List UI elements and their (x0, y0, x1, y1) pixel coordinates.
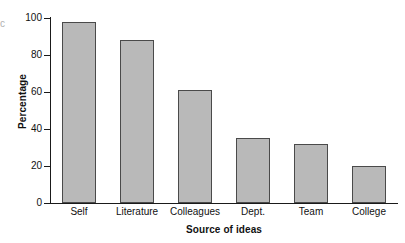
bar[interactable] (62, 22, 96, 203)
bar[interactable] (294, 144, 328, 203)
x-tick-label: Literature (108, 206, 166, 218)
y-tick-label: 0 (8, 198, 42, 208)
x-tick-label: College (340, 206, 398, 218)
y-tick-label-wrap: 40 (0, 124, 42, 134)
y-tick-label-wrap: 20 (0, 161, 42, 171)
y-tick-label: 80 (8, 50, 42, 60)
plot-area (50, 18, 398, 203)
y-tick-label-wrap: 80 (0, 50, 42, 60)
x-tick-label: Colleagues (166, 206, 224, 218)
x-axis-title: Source of ideas (50, 224, 398, 235)
bar[interactable] (352, 166, 386, 203)
x-tick-label: Team (282, 206, 340, 218)
bar[interactable] (120, 40, 154, 203)
y-tick-label-wrap: 0 (0, 198, 42, 208)
y-tick-label: 100 (8, 13, 42, 23)
bar-chart: c Percentage 020406080100 SelfLiterature… (0, 0, 405, 243)
y-tick-label: 60 (8, 87, 42, 97)
y-tick-label-wrap: 100 (0, 13, 42, 23)
y-tick-label: 20 (8, 161, 42, 171)
bar[interactable] (178, 90, 212, 203)
y-tick-label-wrap: 60 (0, 87, 42, 97)
x-axis-line (50, 203, 398, 204)
bar[interactable] (236, 138, 270, 203)
x-tick-label: Self (50, 206, 108, 218)
y-tick-label: 40 (8, 124, 42, 134)
x-tick-label: Dept. (224, 206, 282, 218)
